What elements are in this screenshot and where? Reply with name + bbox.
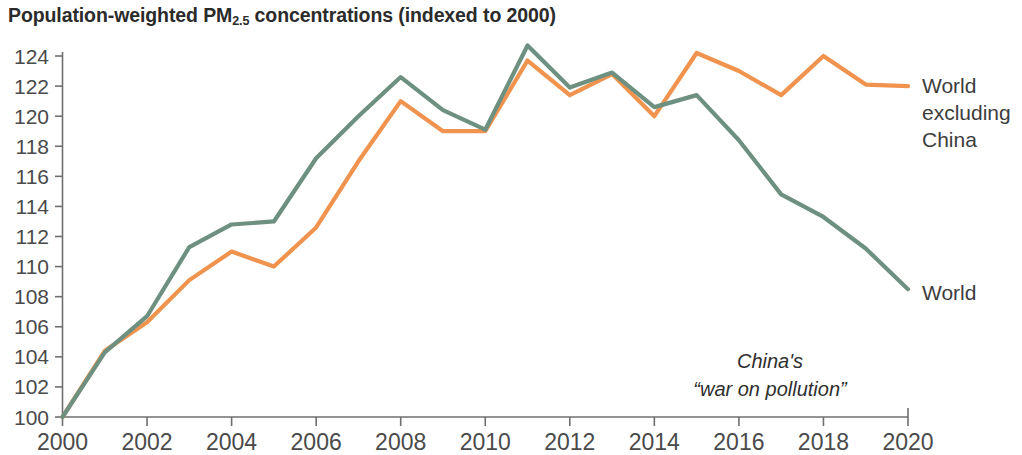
x-tick-label: 2008: [375, 429, 426, 455]
y-tick-label: 106: [14, 315, 49, 338]
y-tick-label: 118: [16, 135, 49, 158]
series-label-line: World: [922, 74, 976, 97]
series-label-line: World: [922, 281, 976, 304]
y-tick-label: 104: [14, 345, 49, 368]
annotations-group: China's“war on pollution”: [693, 350, 848, 400]
x-tick-label: 2016: [713, 429, 764, 455]
annotation-line-2: “war on pollution”: [693, 378, 848, 400]
series-label-world-excluding-china: WorldexcludingChina: [922, 74, 1011, 151]
y-tick-label: 116: [16, 165, 49, 188]
annotation-china-war-on-pollution: China's“war on pollution”: [693, 350, 848, 400]
x-tick-label: 2006: [291, 429, 342, 455]
y-tick-label: 124: [14, 45, 49, 68]
series-labels-group: WorldexcludingChinaWorld: [922, 74, 1011, 304]
chart-container: Population-weighted PM2.5 concentrations…: [0, 0, 1022, 455]
series-label-world: World: [922, 281, 976, 304]
x-tick-label: 2020: [882, 429, 933, 455]
line-chart-plot: 100102104106108110112114116118120122124 …: [0, 0, 1022, 455]
y-tick-label: 100: [14, 406, 49, 429]
y-tick-label: 112: [16, 225, 49, 248]
x-axis-ticks: 2000200220042006200820102012201420162018…: [37, 417, 934, 455]
x-tick-label: 2000: [37, 429, 88, 455]
y-tick-label: 122: [14, 75, 49, 98]
x-tick-label: 2012: [544, 429, 595, 455]
y-tick-label: 120: [14, 105, 49, 128]
y-tick-label: 102: [14, 375, 49, 398]
x-tick-label: 2018: [798, 429, 849, 455]
y-tick-label: 108: [14, 285, 49, 308]
annotation-line-1: China's: [737, 350, 803, 372]
x-tick-label: 2014: [629, 429, 680, 455]
y-tick-label: 114: [16, 195, 50, 218]
series-label-line: excluding: [922, 101, 1011, 124]
x-tick-label: 2010: [460, 429, 511, 455]
y-axis-ticks: 100102104106108110112114116118120122124: [14, 45, 63, 429]
y-tick-label: 110: [16, 255, 49, 278]
series-label-line: China: [922, 128, 977, 151]
x-tick-label: 2002: [121, 429, 172, 455]
x-tick-label: 2004: [206, 429, 257, 455]
